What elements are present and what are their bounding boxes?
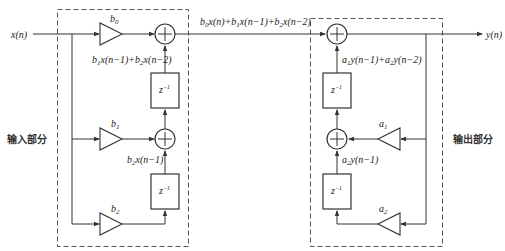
delay-block — [151, 174, 179, 209]
input-section-box — [58, 10, 189, 247]
coef-a1-label: a1 — [379, 118, 388, 131]
output-upper-sum-label: a1y(n−1)+a2y(n−2) — [342, 54, 422, 67]
input-section-label: 输入部分 — [7, 133, 47, 145]
gain-b0-icon — [100, 23, 122, 45]
coef-a2-label: a2 — [379, 203, 388, 216]
gain-b1-icon — [100, 128, 122, 150]
output-label: y(n) — [485, 29, 503, 41]
coef-b0: 0 — [115, 18, 119, 26]
input-lower-sum-label: b2x(n−1) — [127, 154, 164, 167]
a2-to-delay-wire — [337, 211, 378, 224]
coef-b1-label: b1 — [111, 118, 120, 131]
gain-a2-icon — [378, 213, 400, 235]
middle-signal-label: b0x(n)+b1x(n−1)+b2x(n−2) — [200, 16, 311, 29]
output-lower-sum-label: a2y(n−1) — [342, 154, 379, 167]
coef-b2-label: b2 — [111, 203, 120, 216]
output-section-label: 输出部分 — [453, 133, 493, 145]
delay-block — [151, 73, 179, 108]
b2-to-delay-wire — [122, 211, 165, 224]
gain-a1-icon — [378, 128, 400, 150]
delay-block — [323, 174, 351, 209]
delay-block — [323, 73, 351, 108]
block-diagram: x(n) y(n) 输入部分 输出部分 b0 b1 b2 a1 a2 z−1 z… — [0, 0, 505, 251]
input-upper-sum-label: b1x(n−1)+b2x(n−2) — [92, 54, 172, 67]
input-label: x(n) — [10, 29, 28, 41]
coef-b0-label: b0 — [110, 13, 119, 26]
gain-b2-icon — [100, 213, 122, 235]
